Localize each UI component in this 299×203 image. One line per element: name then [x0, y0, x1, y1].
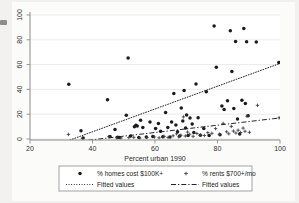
legend-marker-homes [78, 172, 82, 176]
y-tick-label-40: 40 [16, 85, 23, 93]
figure-container: 100 80 60 40 20 0 20 40 60 80 100 Percen… [0, 0, 299, 203]
y-axis-tick-labels: 100 80 60 40 20 0 [16, 9, 23, 141]
x-tick-label-80: 80 [214, 145, 222, 152]
plot-panel [30, 12, 280, 140]
x-axis-ticks [30, 140, 280, 144]
y-tick-label-0: 0 [16, 137, 23, 141]
x-axis-tick-labels: 20 40 60 80 100 [26, 145, 286, 152]
y-tick-label-100: 100 [16, 9, 23, 21]
x-axis-title: Percent urban 1990 [124, 155, 186, 162]
legend-label-fit-rents: Fitted values [202, 181, 240, 188]
x-tick-label-20: 20 [26, 145, 34, 152]
y-axis-ticks [27, 15, 31, 139]
legend-label-fit-homes: Fitted values [97, 181, 135, 188]
y-tick-label-60: 60 [16, 61, 23, 69]
scatter-plot: 100 80 60 40 20 0 20 40 60 80 100 Percen… [0, 0, 299, 203]
y-tick-label-80: 80 [16, 36, 23, 44]
x-tick-label-100: 100 [274, 145, 286, 152]
legend-label-homes: % homes cost $100K+ [97, 170, 163, 177]
legend: % homes cost $100K+ % rents $700+/mo Fit… [59, 166, 256, 191]
y-tick-label-20: 20 [16, 110, 23, 118]
x-tick-label-60: 60 [151, 145, 159, 152]
x-tick-label-40: 40 [89, 145, 97, 152]
legend-label-rents: % rents $700+/mo [202, 170, 256, 177]
